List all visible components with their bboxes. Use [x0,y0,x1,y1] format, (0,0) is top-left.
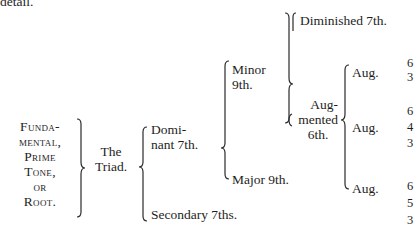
major-ninth: Major 9th. [232,172,289,187]
diminished-seventh: Diminished 7th. [300,13,387,28]
aug-chord-3-label: Aug. [352,181,379,196]
aug6-line-3: 6th. [298,127,338,142]
augmented-sixth-label: Aug- mented 6th. [292,97,338,142]
aug-chord-1-label: Aug. [352,65,379,80]
aug6-line-2: mented [292,112,338,127]
header-fragment: detail. [0,0,33,9]
minor-ninth-line-1: Minor [232,62,266,77]
aug-chord-2-figure-3: 3 [407,136,413,150]
brace-diminished-open [291,12,297,32]
aug-chord-3-figure-1: 6 [407,179,413,193]
root-line-5: or [0,179,80,194]
secondary-sevenths: Secondary 7ths. [151,207,237,222]
brace-aug6-to-chords [340,64,350,190]
root-line-4: Tone, [0,164,80,179]
aug-chord-2-label: Aug. [352,120,379,135]
minor-ninth-line-2: 9th. [232,77,253,92]
root-line-2: mental, [0,134,80,149]
brace-dominant-to-ninths [220,60,230,180]
aug-chord-3-figure-3: 3 [407,213,413,227]
brace-triad-to-sevenths [138,126,148,222]
root-line-3: Prime [0,149,80,164]
root-line-6: Root. [0,194,80,209]
aug-chord-3-figure-2: 5 [407,196,413,210]
aug-chord-2-figure-2: 4 [407,120,413,134]
root-line-1: Funda- [0,119,80,134]
root-label: Funda- mental, Prime Tone, or Root. [0,119,80,209]
aug-chord-1-figure-2: 3 [407,70,413,84]
triad-label: The Triad. [88,144,134,174]
aug-chord-1-figure-1: 6 [407,56,413,70]
brace-root-to-triad [76,118,86,218]
aug6-line-1: Aug- [292,97,338,112]
triad-line-2: Triad. [88,159,134,174]
aug-chord-2-figure-1: 6 [407,104,413,118]
triad-line-1: The [88,144,134,159]
dominant-line-1: Domi- [151,122,186,137]
dominant-line-2: nant 7th. [151,137,198,152]
brace-aug6-curl [287,113,293,127]
